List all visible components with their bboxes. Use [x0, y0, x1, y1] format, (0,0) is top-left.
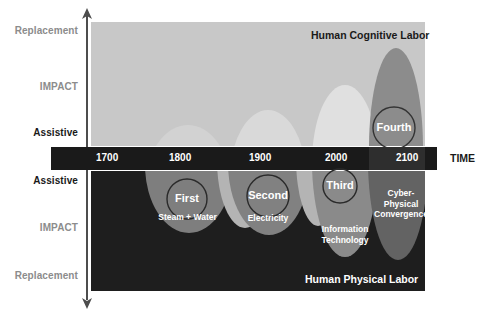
y-label-top-impact: IMPACT	[0, 81, 78, 92]
ring-label-third: Third	[310, 179, 370, 191]
timeline-tick-1900: 1900	[249, 152, 271, 163]
bottom-panel-title: Human Physical Labor	[305, 273, 418, 285]
y-label-bottom-impact: IMPACT	[0, 222, 78, 233]
y-label-top-replacement: Replacement	[0, 25, 78, 36]
tech-label-second: Electricity	[223, 213, 313, 224]
timeline-tick-2100: 2100	[396, 152, 418, 163]
y-label-top-assistive: Assistive	[0, 127, 78, 138]
y-label-bottom-assistive: Assistive	[0, 175, 78, 186]
tech-label-fourth: Cyber- Physical Convergence	[365, 188, 437, 220]
timeline-tick-2000: 2000	[325, 152, 347, 163]
tech-label-third: Information Technology	[304, 224, 386, 245]
y-label-bottom-replacement: Replacement	[0, 270, 78, 281]
diagram-canvas: Replacement IMPACT Assistive Assistive I…	[0, 0, 493, 317]
timeline-tick-1800: 1800	[169, 152, 191, 163]
ring-label-fourth: Fourth	[364, 121, 424, 133]
time-axis-label: TIME	[450, 152, 475, 164]
ring-label-first: First	[157, 192, 217, 204]
ring-label-second: Second	[238, 189, 298, 201]
top-panel-title: Human Cognitive Labor	[311, 29, 429, 41]
timeline-tick-1700: 1700	[96, 152, 118, 163]
